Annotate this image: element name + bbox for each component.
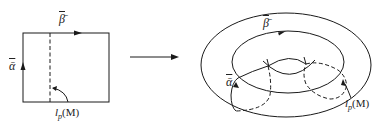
alpha-label-square: ᾱ [9, 60, 15, 72]
lp-label-square: lp(M) [55, 107, 79, 121]
beta-label-square: β̄ [59, 13, 65, 25]
square-figure [21, 31, 110, 103]
torus-hole-upper [268, 58, 306, 66]
alpha-arrow-icon [21, 62, 26, 70]
alpha-label-torus: ᾱ [226, 76, 232, 88]
alpha-symbol: ᾱ [9, 59, 15, 73]
alpha-meridian-front [231, 66, 268, 111]
alpha-symbol: ᾱ [226, 75, 232, 89]
beta-arrow-icon [74, 31, 82, 36]
square-outline [23, 33, 109, 102]
lp-arg: (M) [62, 106, 79, 118]
alpha-meridian-back [236, 66, 271, 111]
lp-label-torus: lp(M) [345, 98, 369, 112]
lp-curve-dashed [304, 63, 346, 99]
maps-to-arrow-icon [130, 54, 179, 60]
torus-hole-lower [263, 60, 315, 74]
beta-longitude-curve [232, 31, 344, 93]
beta-symbol: β̄ [263, 16, 269, 30]
beta-symbol: β̄ [59, 12, 65, 26]
lp-pointer-icon [345, 84, 351, 98]
beta-label-torus: β̄ [263, 17, 269, 29]
lp-arg: (M) [352, 97, 369, 109]
